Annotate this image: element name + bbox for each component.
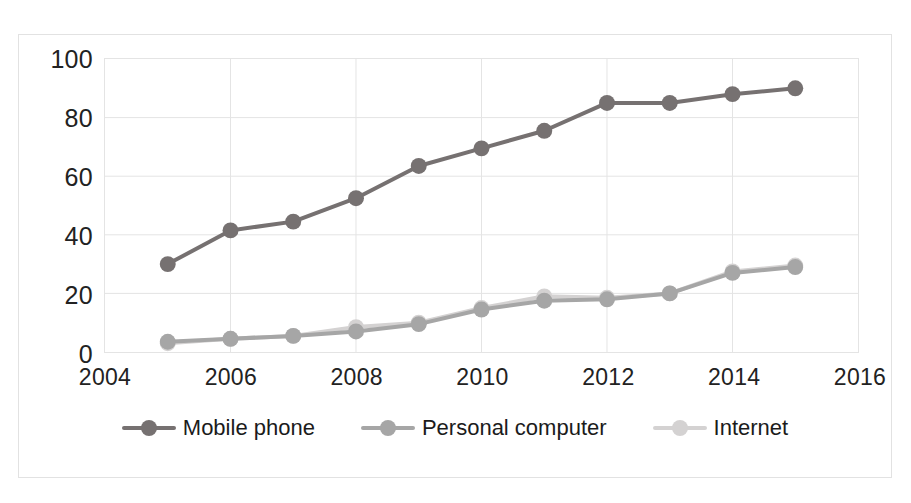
x-axis-tick-label: 2010	[456, 366, 508, 389]
data-point	[474, 140, 490, 156]
data-point	[725, 86, 741, 102]
legend-item-label: Personal computer	[422, 417, 607, 439]
data-point	[662, 95, 678, 111]
x-axis-tick-label: 2006	[205, 366, 257, 389]
data-point	[160, 334, 176, 350]
data-point	[348, 190, 364, 206]
data-point	[223, 331, 239, 347]
x-axis-tick-label: 2004	[79, 366, 131, 389]
chart-legend: Mobile phonePersonal computerInternet	[19, 417, 891, 439]
x-axis-tick-label: 2016	[834, 366, 886, 389]
data-point	[285, 214, 301, 230]
data-point	[223, 222, 239, 238]
data-point	[599, 95, 615, 111]
legend-item-label: Internet	[714, 417, 789, 439]
legend-item-label: Mobile phone	[183, 417, 315, 439]
legend-item[interactable]: Personal computer	[361, 417, 607, 439]
x-axis-tick-label: 2014	[708, 366, 760, 389]
y-axis-tick-label: 40	[65, 224, 93, 249]
data-point	[285, 328, 301, 344]
data-point	[725, 265, 741, 281]
data-point	[599, 291, 615, 307]
data-point	[536, 123, 552, 139]
data-point	[787, 80, 803, 96]
data-point	[411, 316, 427, 332]
x-axis-tick-label: 2012	[582, 366, 634, 389]
data-point	[536, 293, 552, 309]
y-axis-tick-label: 80	[65, 106, 93, 131]
plot-area: 100806040200 200420062008201020122014201…	[104, 58, 859, 353]
data-point	[160, 256, 176, 272]
x-axis-tick-label: 2008	[330, 366, 382, 389]
y-axis-tick-label: 0	[79, 342, 93, 367]
y-axis-tick-label: 60	[65, 165, 93, 190]
data-point	[474, 302, 490, 318]
legend-item[interactable]: Mobile phone	[122, 417, 315, 439]
data-point	[411, 158, 427, 174]
data-point	[787, 259, 803, 275]
data-point	[348, 324, 364, 340]
legend-item[interactable]: Internet	[653, 417, 789, 439]
y-axis-tick-label: 20	[65, 283, 93, 308]
plot-canvas	[105, 59, 858, 352]
chart-frame: 100806040200 200420062008201020122014201…	[18, 34, 892, 478]
y-axis-tick-label: 100	[50, 47, 93, 72]
legend-marker-icon	[122, 418, 176, 438]
data-point	[662, 285, 678, 301]
legend-marker-icon	[653, 418, 707, 438]
legend-marker-icon	[361, 418, 415, 438]
